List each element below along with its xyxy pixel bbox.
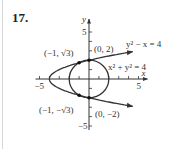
intersection-point	[87, 96, 91, 100]
parabola-lower-branch	[49, 79, 132, 106]
point-label: (0, −2)	[95, 109, 120, 119]
plot-area: −555−5xyy² − x = 4x² + y² = 4(−1, √3)(0,…	[0, 0, 171, 149]
y-axis-label: y	[81, 14, 86, 24]
x-tick-label: −5	[35, 81, 45, 91]
x-tick-label: 5	[137, 81, 142, 91]
y-tick-label: −5	[78, 121, 88, 131]
point-label: (−1, √3)	[44, 48, 74, 58]
circle-label: x² + y² = 4	[108, 62, 147, 72]
intersection-point	[87, 58, 91, 62]
intersection-point	[77, 61, 81, 65]
parabola-label: y² − x = 4	[126, 39, 162, 49]
intersection-point	[77, 93, 81, 97]
point-label: (0, 2)	[94, 44, 114, 54]
y-tick-label: 5	[82, 27, 87, 37]
figure: 17. −555−5xyy² − x = 4x² + y² = 4(−1, √3…	[0, 0, 171, 149]
point-label: (−1, −√3)	[39, 105, 74, 115]
